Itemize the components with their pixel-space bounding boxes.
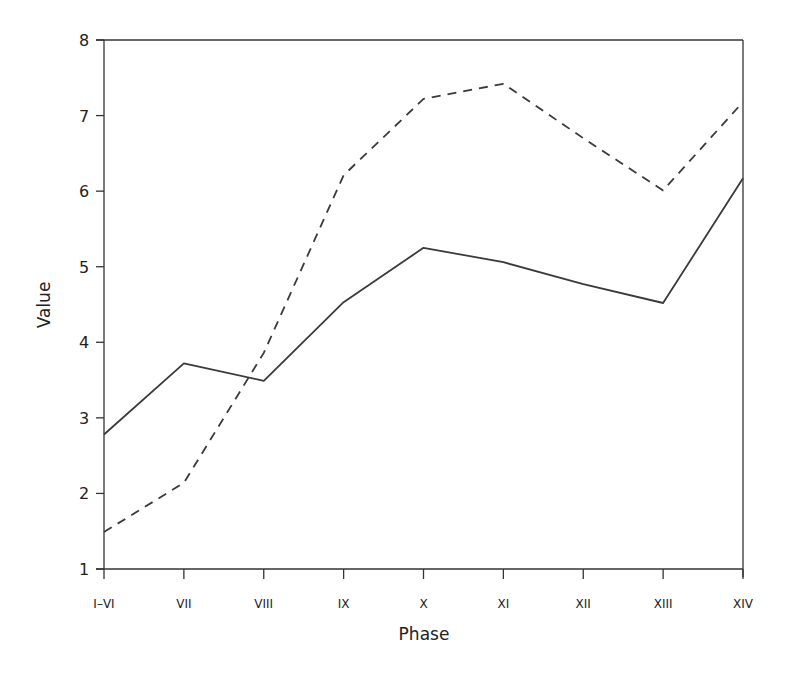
series-line-dashed — [104, 84, 743, 532]
y-tick-label: 7 — [79, 107, 89, 126]
y-tick-label: 5 — [79, 258, 89, 277]
x-tick-label: XIII — [654, 597, 673, 611]
x-tick-label: I–VI — [93, 597, 114, 611]
y-tick-label: 8 — [79, 31, 89, 50]
y-axis-title: Value — [34, 282, 54, 329]
plot-axes: 12345678I–VIVIIVIIIIXXXIXIIXIIIXIV — [79, 31, 754, 611]
x-tick-label: XIV — [733, 597, 754, 611]
series-line-solid — [104, 178, 743, 434]
plot-series — [104, 84, 743, 532]
y-tick-label: 3 — [79, 409, 89, 428]
x-tick-label: XI — [497, 597, 509, 611]
x-tick-label: IX — [338, 597, 350, 611]
y-tick-label: 1 — [79, 560, 89, 579]
plot-labels: Phase Value — [34, 282, 449, 644]
y-tick-label: 2 — [79, 484, 89, 503]
y-tick-label: 4 — [79, 333, 89, 352]
x-tick-label: XII — [576, 597, 591, 611]
line-chart: 12345678I–VIVIIVIIIIXXXIXIIXIIIXIV Phase… — [0, 0, 793, 679]
x-tick-label: VIII — [254, 597, 273, 611]
x-tick-label: X — [419, 597, 427, 611]
x-axis-title: Phase — [399, 624, 450, 644]
x-tick-label: VII — [176, 597, 191, 611]
y-tick-label: 6 — [79, 182, 89, 201]
